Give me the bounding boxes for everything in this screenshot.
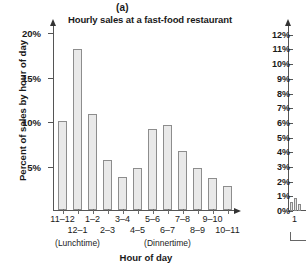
right-chart-y-axis-tick: 2%	[288, 182, 293, 183]
x-axis-tick-label: 8–9	[190, 225, 205, 235]
panel-label: (a)	[0, 2, 245, 13]
bar-slot	[103, 25, 113, 210]
x-axis-annotation: (Dinnertime)	[144, 238, 191, 248]
right-chart-y-axis-tick-label: 0%	[277, 206, 290, 216]
bar-slot	[208, 25, 218, 210]
right-chart-y-axis-tick: 3%	[288, 167, 293, 168]
bar-slot	[178, 25, 188, 210]
right-chart-y-axis-tick: 8%	[288, 94, 293, 95]
x-axis-tick-label: 12–1	[67, 225, 87, 235]
x-axis-annotation: (Lunchtime)	[55, 238, 100, 248]
right-chart-y-axis-tick: 1%	[288, 196, 293, 197]
right-chart-y-axis-tick-label: 2%	[277, 177, 290, 187]
bar-series	[55, 26, 235, 210]
right-chart-y-axis-tick: 12%	[288, 35, 293, 36]
bar-slot	[58, 25, 68, 210]
bar-slot	[133, 25, 143, 210]
right-chart-y-axis-line: 12%11%10%9%8%7%6%5%4%3%2%1%0%	[288, 26, 289, 211]
right-chart-x-tick-label: 1	[292, 214, 297, 224]
y-axis-tick: 10%	[48, 122, 54, 123]
right-chart-y-axis-tick-label: 4%	[277, 147, 290, 157]
bar[interactable]	[103, 160, 113, 210]
right-chart-y-axis-arrow-icon	[285, 19, 291, 26]
bar[interactable]	[208, 178, 218, 210]
right-chart-y-axis-tick: 11%	[288, 49, 293, 50]
bar[interactable]	[223, 186, 233, 210]
bar[interactable]	[193, 168, 203, 210]
right-chart-x-axis-line	[288, 210, 306, 211]
x-axis-tick-label: 3–4	[115, 214, 130, 224]
bar-slot	[148, 25, 158, 210]
x-axis-line	[53, 210, 234, 211]
y-axis-tick-label: 5%	[27, 161, 41, 172]
right-chart-y-axis-tick: 5%	[288, 138, 293, 139]
x-axis-tick-label: 1–2	[85, 214, 100, 224]
x-axis-tick-label: 7–8	[175, 214, 190, 224]
x-axis-tick-label: 2–3	[100, 225, 115, 235]
x-axis-tick-label: 6–7	[160, 225, 175, 235]
y-axis-line	[53, 26, 54, 211]
chart-title: Hourly sales at a fast-food restaurant	[52, 14, 248, 25]
right-chart-y-axis-tick: 4%	[288, 152, 293, 153]
x-axis-title: Hour of day	[46, 252, 246, 263]
bar[interactable]	[58, 121, 68, 210]
bar-slot	[223, 25, 233, 210]
bar-slot	[73, 25, 83, 210]
bar[interactable]	[118, 177, 128, 210]
right-chart-y-axis-tick: 0%	[288, 211, 293, 212]
right-chart-y-axis-tick-label: 9%	[277, 74, 290, 84]
right-chart-y-axis-tick-label: 12%	[272, 30, 290, 40]
y-axis-tick-label: 15%	[22, 72, 41, 83]
right-chart-y-axis-tick-label: 11%	[272, 44, 290, 54]
right-chart-y-axis-tick-label: 5%	[277, 133, 290, 143]
right-chart-bar[interactable]	[294, 198, 297, 211]
y-axis-title: Percent of sales by hour of day	[17, 26, 28, 196]
right-chart-bar[interactable]	[298, 204, 301, 211]
right-chart-y-axis-tick: 6%	[288, 123, 293, 124]
bar[interactable]	[163, 125, 173, 210]
right-chart-y-axis-tick-label: 6%	[277, 118, 290, 128]
right-chart-y-axis-tick-label: 1%	[277, 191, 290, 201]
bar[interactable]	[148, 129, 158, 210]
bar[interactable]	[133, 168, 143, 210]
x-axis-tick-label: 10–11	[215, 225, 239, 235]
bar-slot	[118, 25, 128, 210]
page-corner-bracket	[290, 232, 306, 241]
x-axis-tick-label: 5–6	[145, 214, 160, 224]
x-axis-tick-label: 9–10	[202, 214, 222, 224]
x-axis-tick-label: 11–12	[50, 214, 74, 224]
right-chart-bar[interactable]	[290, 202, 293, 211]
bar[interactable]	[178, 151, 188, 210]
right-chart-y-axis-tick-label: 10%	[272, 59, 290, 69]
plot-area: 20%15%10%5%	[53, 26, 239, 211]
bar-slot	[88, 25, 98, 210]
y-axis-tick-label: 20%	[22, 28, 41, 39]
bar[interactable]	[88, 114, 98, 210]
right-chart-y-axis-tick: 10%	[288, 64, 293, 65]
y-axis-tick-label: 10%	[22, 117, 41, 128]
bar-slot	[163, 25, 173, 210]
y-axis-tick: 5%	[48, 167, 54, 168]
y-axis-arrow-icon	[50, 19, 56, 26]
right-chart-y-axis-tick-label: 7%	[277, 103, 290, 113]
right-chart-y-axis-tick-label: 3%	[277, 162, 290, 172]
y-axis-tick: 15%	[48, 78, 54, 79]
right-chart-y-axis-tick: 7%	[288, 108, 293, 109]
figure-panel: (a) Hourly sales at a fast-food restaura…	[0, 0, 306, 277]
bar-slot	[193, 25, 203, 210]
right-chart-y-axis-tick: 9%	[288, 79, 293, 80]
x-axis-tick-label: 4–5	[130, 225, 145, 235]
y-axis-tick: 20%	[48, 33, 54, 34]
bar[interactable]	[73, 49, 83, 210]
right-chart-y-axis-tick-label: 8%	[277, 89, 290, 99]
x-axis-tick-labels: 11–1212–11–22–33–44–55–66–77–88–99–1010–…	[53, 214, 243, 240]
